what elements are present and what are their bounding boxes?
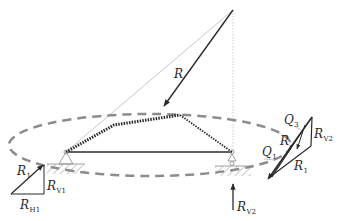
label-r1-left: R1	[17, 165, 31, 177]
funicular-polygon-thin	[180, 115, 232, 152]
label-rv1: RV1	[47, 180, 66, 192]
right-roller-support	[215, 150, 251, 176]
label-q3: Q3	[284, 114, 299, 126]
polygon-rv2-line	[311, 117, 312, 146]
funicular-polygon-thick	[66, 115, 180, 152]
resultant-arrow	[164, 10, 233, 106]
label-q1: Q1	[262, 146, 277, 158]
label-rv2-polygon: RV2	[314, 128, 333, 140]
label-rv2-support: RV2	[237, 201, 256, 213]
label-r1-polygon: R1	[294, 160, 308, 172]
label-rh1: RH1	[20, 199, 40, 211]
construction-lines	[66, 10, 233, 152]
label-resultant-r: R	[174, 68, 183, 80]
construction-line-diagonal	[66, 10, 233, 152]
label-polygon-r: R	[280, 135, 289, 147]
left-pin-support	[47, 150, 85, 174]
